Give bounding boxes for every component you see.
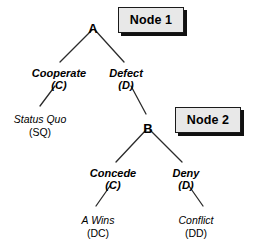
tree-edge-edge-a-right bbox=[95, 30, 124, 62]
outcome-label-conflict: Conflict bbox=[178, 215, 213, 226]
decision-node-a-label: A bbox=[88, 22, 98, 36]
decision-node-b-label: B bbox=[143, 122, 153, 136]
branch-code-deny: (D) bbox=[178, 180, 193, 192]
tree-edge-edge-b-right bbox=[150, 130, 182, 162]
branch-code-defect: (D) bbox=[118, 80, 133, 92]
outcome-label-status-quo: Status Quo bbox=[14, 114, 67, 125]
branch-code-concede: (C) bbox=[105, 180, 120, 192]
game-tree-diagram: A B Cooperate (C) Defect (D) Concede (C)… bbox=[0, 0, 254, 251]
branch-code-cooperate: (C) bbox=[51, 80, 66, 92]
callout-box-node-2: Node 2 bbox=[175, 107, 241, 133]
callout-box-node-1: Node 1 bbox=[118, 7, 184, 33]
outcome-code-conflict: (DD) bbox=[185, 228, 207, 239]
callout-box-node-1-label: Node 1 bbox=[128, 13, 174, 27]
outcome-code-a-wins: (DC) bbox=[87, 228, 109, 239]
tree-edge-edge-b-left bbox=[116, 130, 146, 162]
outcome-code-status-quo: (SQ) bbox=[29, 127, 51, 138]
callout-box-node-2-label: Node 2 bbox=[185, 113, 231, 127]
tree-edge-edge-a-left bbox=[60, 30, 92, 62]
outcome-label-a-wins: A Wins bbox=[82, 215, 115, 226]
